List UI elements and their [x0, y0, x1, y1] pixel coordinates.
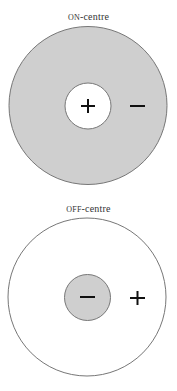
on-centre-receptive-field — [0, 0, 177, 195]
off-centre-receptive-field — [0, 195, 177, 391]
